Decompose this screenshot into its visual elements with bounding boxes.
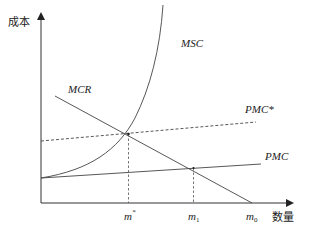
pmc-star-label: PMC* [244, 103, 274, 115]
pmc-line [41, 164, 261, 178]
cost-quantity-diagram: 成本 数量 MSC MCR PMC* PMC m* m1 m0 [0, 0, 310, 231]
msc-label: MSC [180, 37, 204, 49]
tick-m0: m0 [246, 210, 258, 224]
equilibrium-point-m-star [127, 133, 130, 136]
tick-m-star: m* [124, 208, 136, 222]
x-axis-label: 数量 [272, 211, 294, 224]
pmc-star-line [41, 122, 256, 141]
equilibrium-point-m1 [192, 167, 194, 169]
tick-m1: m1 [188, 210, 200, 224]
mcr-label: MCR [67, 83, 92, 95]
msc-curve [41, 5, 163, 178]
mcr-line [55, 96, 252, 203]
y-axis-label: 成本 [8, 15, 30, 29]
pmc-label: PMC [264, 150, 289, 162]
